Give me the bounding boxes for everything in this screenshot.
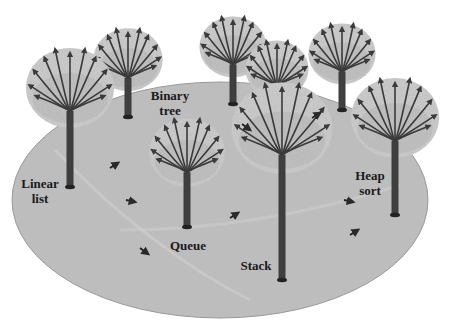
label-heap-sort: Heap sort xyxy=(345,168,395,198)
label-queue: Queue xyxy=(160,238,216,253)
label-linear-list: Linear list xyxy=(15,176,65,206)
label-binary-tree: Binary tree xyxy=(140,88,200,118)
label-stack: Stack xyxy=(228,258,284,273)
data-structure-forest-diagram xyxy=(0,0,456,330)
